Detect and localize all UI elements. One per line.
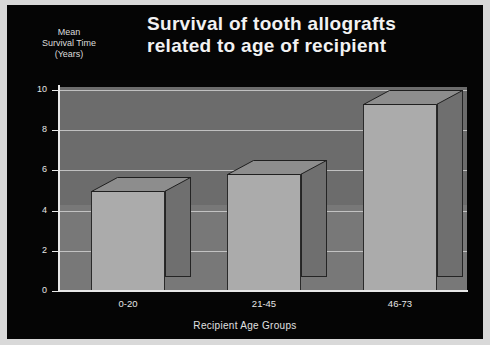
y-axis-tick-label: 4: [27, 206, 47, 215]
y-axis-tick: [52, 251, 59, 252]
plot-area: 0246810 0-2021-4546-73: [52, 80, 467, 292]
x-axis-title: Recipient Age Groups: [7, 320, 483, 331]
slide-canvas: Survival of tooth allografts related to …: [7, 5, 483, 339]
bar-front-face: [91, 191, 165, 292]
x-axis-tick-label: 21-45: [219, 299, 309, 309]
bar-top-face: [363, 90, 463, 106]
chart-title: Survival of tooth allografts related to …: [147, 13, 467, 57]
bar-front-face: [227, 174, 301, 291]
x-axis-tick-label: 46-73: [355, 299, 445, 309]
y-axis-tick-label: 6: [27, 165, 47, 174]
bar-side-face: [301, 160, 327, 277]
y-axis-tick: [52, 170, 59, 171]
bar-top-face: [91, 177, 191, 193]
y-axis-title: Mean Survival Time (Years): [19, 27, 119, 60]
x-axis-tick-label: 0-20: [83, 299, 173, 309]
y-axis-title-line-1: Mean: [19, 27, 119, 38]
y-axis-title-line-3: (Years): [19, 49, 119, 60]
bar: [227, 160, 327, 291]
bar-front-face: [363, 104, 437, 291]
y-axis-tick-label: 0: [27, 286, 47, 295]
y-axis-tick: [52, 90, 59, 91]
y-axis-title-line-2: Survival Time: [19, 38, 119, 49]
bar: [363, 90, 463, 291]
bar-side-face: [437, 90, 463, 277]
y-axis-tick: [52, 291, 59, 292]
slide-frame: Survival of tooth allografts related to …: [0, 0, 490, 345]
y-axis-tick-label: 8: [27, 125, 47, 134]
y-axis-tick: [52, 211, 59, 212]
chart-title-line-2: related to age of recipient: [147, 35, 467, 57]
y-axis-tick-label: 10: [27, 85, 47, 94]
x-axis-line: [58, 290, 468, 292]
y-axis-tick-label: 2: [27, 246, 47, 255]
bar: [91, 177, 191, 292]
chart-title-line-1: Survival of tooth allografts: [147, 13, 467, 35]
y-axis-line: [58, 85, 60, 291]
bar-top-face: [227, 160, 327, 176]
y-axis-tick: [52, 130, 59, 131]
